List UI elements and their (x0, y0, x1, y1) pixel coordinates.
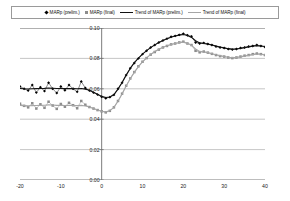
data-point-square (27, 106, 30, 109)
x-tick-label: 30 (221, 183, 227, 189)
data-point-diamond (20, 85, 21, 88)
y-tick-label: 0.00 (80, 177, 100, 183)
x-tick-label: 0 (100, 183, 103, 189)
square-marker-icon (85, 11, 88, 14)
x-tick-label: -20 (16, 183, 24, 189)
data-point-square (68, 102, 71, 105)
x-tick-label: 10 (140, 183, 146, 189)
data-point-square (76, 107, 79, 110)
x-tick-label: -10 (57, 183, 65, 189)
legend-item-trend-final: Trend of MARp (final) (188, 10, 246, 15)
data-point-square (47, 100, 50, 103)
line-dark-icon (120, 12, 133, 13)
data-point-square (35, 107, 38, 110)
x-tick-label: 20 (180, 183, 186, 189)
line-gray-icon (188, 12, 201, 13)
gridlines (20, 28, 265, 180)
legend-label: MARp (prelim.) (50, 10, 80, 15)
data-series (20, 32, 265, 113)
legend-label: MARp (final) (90, 10, 115, 15)
diamond-marker-icon (44, 10, 48, 14)
legend-label: Trend of MARp (final) (203, 10, 246, 15)
legend-item-trend-prelim: Trend of MARp (prelim.) (120, 10, 183, 15)
chart-screenshot: MARp (prelim.) MARp (final) Trend of MAR… (0, 0, 290, 201)
data-point-square (56, 108, 59, 111)
legend-label: Trend of MARp (prelim.) (135, 10, 183, 15)
series-connector (20, 42, 265, 113)
plot-area (20, 28, 265, 180)
data-point-diamond (80, 80, 83, 83)
y-tick-label: 0.10 (80, 25, 100, 31)
legend-item-marp-final: MARp (final) (85, 10, 115, 15)
chart-canvas (20, 28, 265, 180)
y-tick-label: 0.04 (80, 116, 100, 122)
data-point-square (80, 100, 83, 103)
y-tick-label: 0.02 (80, 147, 100, 153)
data-point-square (20, 102, 21, 105)
trend-line (20, 42, 265, 112)
data-point-square (43, 107, 46, 110)
data-point-square (31, 102, 34, 105)
y-tick-label: 0.06 (80, 86, 100, 92)
x-tick-label: 40 (262, 183, 268, 189)
x-tick-marks (20, 28, 265, 180)
y-tick-label: 0.08 (80, 55, 100, 61)
trend-line (20, 35, 265, 98)
legend-item-marp-prelim: MARp (prelim.) (45, 10, 80, 15)
chart-legend: MARp (prelim.) MARp (final) Trend of MAR… (11, 6, 279, 19)
data-point-diamond (47, 81, 50, 84)
